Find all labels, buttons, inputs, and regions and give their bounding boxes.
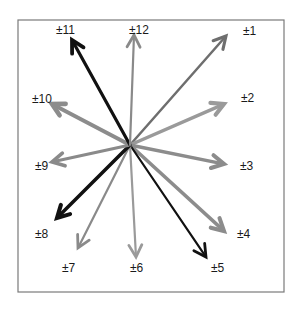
arrow-shaft [130, 145, 222, 164]
arrow-shaft [54, 145, 130, 162]
arrow-shaft [130, 145, 223, 230]
arrow-shaft [130, 105, 222, 145]
arrowhead-icon [194, 243, 206, 257]
arrow-shaft [130, 145, 205, 255]
direction-label-12: ±12 [129, 23, 149, 37]
arrow-2 [130, 103, 224, 145]
arrow-7 [78, 145, 130, 248]
arrow-shaft [130, 38, 225, 145]
direction-label-9: ±9 [35, 159, 49, 173]
direction-label-4: ±4 [237, 227, 251, 241]
arrow-shaft [130, 145, 136, 255]
arrow-12 [127, 35, 140, 145]
direction-label-11: ±11 [56, 23, 75, 37]
arrow-4 [130, 145, 224, 231]
direction-label-5: ±5 [211, 261, 225, 275]
clock-direction-diagram: ±1±2±3±4±5±6±7±8±9±10±11±12 [0, 0, 297, 312]
arrow-shaft [130, 37, 134, 145]
direction-label-8: ±8 [35, 227, 49, 241]
direction-label-7: ±7 [62, 261, 76, 275]
arrow-8 [57, 145, 130, 218]
arrow-shaft [58, 145, 130, 217]
direction-label-6: ±6 [130, 261, 144, 275]
direction-label-2: ±2 [241, 91, 255, 105]
direction-label-1: ±1 [243, 24, 257, 38]
arrow-shaft [79, 145, 130, 246]
arrow-1 [130, 36, 226, 145]
arrow-5 [130, 145, 206, 257]
direction-label-3: ±3 [240, 159, 254, 173]
direction-label-10: ±10 [32, 92, 52, 106]
arrow-6 [129, 145, 142, 257]
arrow-group [52, 35, 226, 257]
